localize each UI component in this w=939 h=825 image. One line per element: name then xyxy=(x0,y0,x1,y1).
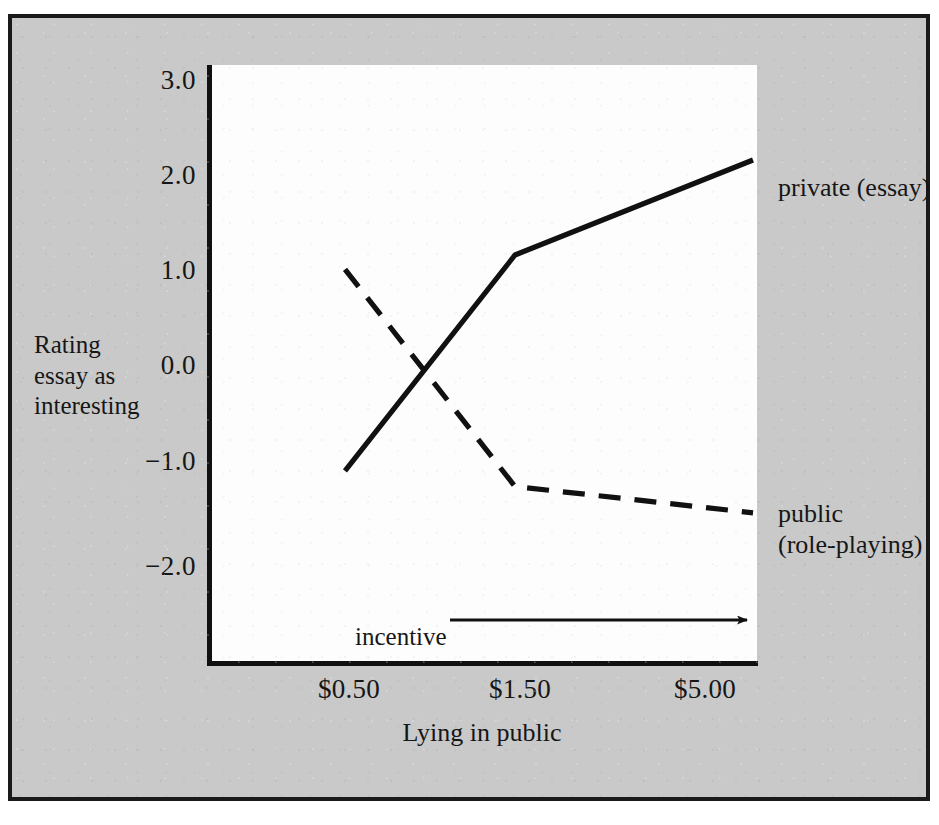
y-tick-neg-1: −1.0 xyxy=(116,446,196,477)
series-label-private-text: private (essay) xyxy=(778,173,930,202)
x-tick-500: $5.00 xyxy=(674,674,736,705)
figure-page: 3.0 2.0 1.0 0.0 −1.0 −2.0 $0.50 $1.50 $5… xyxy=(0,0,939,825)
y-tick-neg-2: −2.0 xyxy=(116,551,196,582)
x-axis-line xyxy=(207,661,758,666)
incentive-annotation-label: incentive xyxy=(355,623,447,651)
x-tick-150: $1.50 xyxy=(489,674,551,705)
series-label-public: public (role-playing) xyxy=(778,498,922,560)
y-axis-title-line-3: interesting xyxy=(34,391,154,422)
y-tick-2: 2.0 xyxy=(116,160,196,191)
y-tick-1: 1.0 xyxy=(116,255,196,286)
series-label-public-line-1: public xyxy=(778,498,922,529)
y-axis-line xyxy=(207,65,212,664)
x-tick-050: $0.50 xyxy=(318,674,380,705)
y-axis-title: Rating essay as interesting xyxy=(34,330,154,422)
series-label-public-line-2: (role-playing) xyxy=(778,529,922,560)
series-label-private: private (essay) xyxy=(778,172,930,203)
y-tick-3: 3.0 xyxy=(116,65,196,96)
x-axis-title: Lying in public xyxy=(207,718,757,748)
y-axis-title-line-2: essay as xyxy=(34,361,154,392)
y-axis-title-line-1: Rating xyxy=(34,330,154,361)
plot-area xyxy=(207,65,757,661)
figure-frame: 3.0 2.0 1.0 0.0 −1.0 −2.0 $0.50 $1.50 $5… xyxy=(8,14,930,801)
